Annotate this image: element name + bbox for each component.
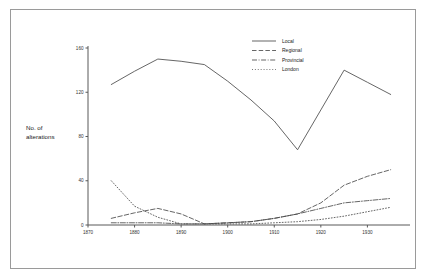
x-tick-label: 1870 [83,230,94,235]
y-tick-label: 160 [76,46,84,51]
y-axis-title-line2: alterations [26,133,55,140]
legend-label-local: Local [282,38,294,44]
x-tick-label: 1920 [316,230,327,235]
y-tick-label: 40 [78,178,84,183]
series-line-provincial [111,198,390,223]
y-axis-ticks: 04080120160 [76,46,88,228]
y-tick-label: 120 [76,90,84,95]
y-axis-title-line1: No. of [26,124,43,131]
series-line-regional [111,170,390,224]
series-line-local [111,59,390,150]
x-tick-label: 1910 [269,230,280,235]
axes-group [88,46,410,225]
line-chart: 04080120160 1870188018901900191019201930… [0,0,427,280]
y-tick-label: 80 [78,134,84,139]
figure-container: 04080120160 1870188018901900191019201930… [0,0,427,280]
y-axis-title: No. of alterations [26,124,55,140]
x-tick-label: 1880 [129,230,140,235]
legend-label-regional: Regional [282,47,302,53]
legend-label-london: London [282,66,299,72]
legend: LocalRegionalProvincialLondon [252,38,304,73]
data-series-group [111,59,390,224]
legend-label-provincial: Provincial [282,57,304,63]
x-tick-label: 1930 [362,230,373,235]
x-axis-ticks: 1870188018901900191019201930 [83,225,373,235]
x-tick-label: 1900 [223,230,234,235]
y-tick-label: 0 [81,223,84,228]
x-tick-label: 1890 [176,230,187,235]
